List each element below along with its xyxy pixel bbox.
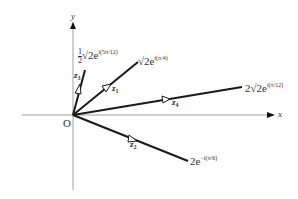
z2-label: z2 [130, 140, 137, 150]
y-axis-label: y [71, 12, 75, 21]
y-axis-arrow-icon [70, 22, 76, 29]
z3-value: 12√2ei(5π/12) [78, 48, 118, 65]
z2-value: 2e−i(π/6) [190, 155, 217, 167]
vector-z4 [73, 87, 242, 115]
z4-direction-arrow-icon [162, 96, 170, 103]
z3-direction-arrow-icon [75, 84, 81, 94]
z1-value: √2ei(π/4) [138, 55, 168, 67]
z4-value: 2√2ei(π/12) [245, 82, 283, 94]
origin-label: O [63, 118, 71, 129]
z1-label: z1 [112, 84, 119, 94]
x-axis-label: x [278, 110, 282, 119]
argand-diagram [0, 0, 298, 199]
x-axis-arrow-icon [267, 112, 275, 118]
z3-label: z3 [74, 71, 81, 81]
z4-label: z4 [172, 98, 179, 108]
